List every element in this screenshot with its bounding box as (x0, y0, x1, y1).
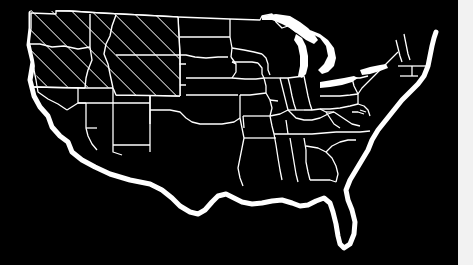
page-edge-strip (458, 0, 473, 265)
us-map-svg (0, 0, 473, 265)
us-map-figure: Contiguous United States Highlighted sta… (0, 0, 473, 265)
